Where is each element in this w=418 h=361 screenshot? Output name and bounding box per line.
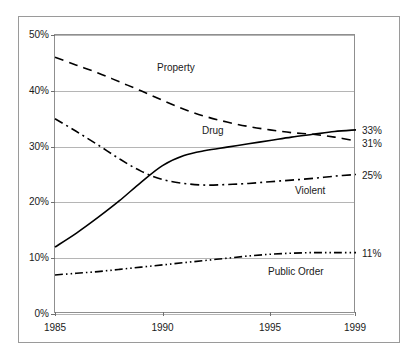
x-axis-label-1999: 1999 [335,323,375,333]
gridline-0 [55,314,354,315]
end-label-drug: 33% [362,126,382,136]
x-axis-label-1995: 1995 [250,323,290,333]
y-axis-label-20: 20% [15,197,49,207]
end-label-public-order: 11% [362,249,381,259]
y-axis-label-10: 10% [15,253,49,263]
chart-container: 0% 10% 20% 30% 40% 50% 1985 1990 1995 19… [0,0,418,361]
y-axis-label-0: 0% [15,309,49,319]
series-label-drug: Drug [200,125,226,137]
plot-area: 0% 10% 20% 30% 40% 50% 1985 1990 1995 19… [54,34,355,313]
x-axis-label-1990: 1990 [143,323,183,333]
y-axis-label-40: 40% [15,86,49,96]
series-label-violent: Violent [293,185,327,197]
y-axis-label-30: 30% [15,142,49,152]
end-label-violent: 25% [362,171,382,181]
end-label-property: 31% [362,139,382,149]
series-label-property: Property [155,62,197,74]
y-axis-label-50: 50% [15,30,49,40]
x-axis-label-1985: 1985 [35,323,75,333]
series-label-public-order: Public Order [266,266,326,278]
